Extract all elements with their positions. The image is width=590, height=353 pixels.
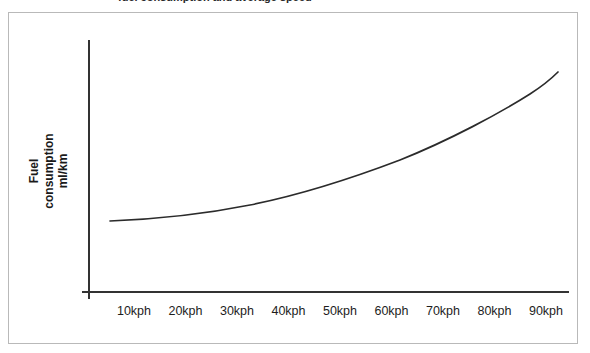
x-tick-label: 20kph: [164, 304, 208, 318]
x-axis-tick-labels: 10kph 20kph 30kph 40kph 50kph 60kph 70kp…: [112, 304, 568, 318]
y-axis-label: Fuel consumption ml/km: [21, 106, 77, 236]
x-tick-label: 80kph: [473, 304, 517, 318]
chart-screenshot: fuel consumption and average speed Fuel …: [0, 0, 590, 353]
x-tick-label: 10kph: [112, 304, 156, 318]
y-axis-label-line-2: consumption: [42, 133, 57, 208]
x-tick-label: 50kph: [318, 304, 362, 318]
y-axis-label-line-1: Fuel: [27, 159, 42, 184]
fuel-consumption-curve: [110, 72, 558, 221]
x-tick-label: 30kph: [215, 304, 259, 318]
x-tick-label: 60kph: [370, 304, 414, 318]
plot-area: [0, 0, 590, 353]
y-axis-label-line-3: ml/km: [56, 154, 71, 189]
x-tick-label: 40kph: [267, 304, 311, 318]
x-tick-label: 70kph: [421, 304, 465, 318]
x-tick-label: 90kph: [524, 304, 568, 318]
